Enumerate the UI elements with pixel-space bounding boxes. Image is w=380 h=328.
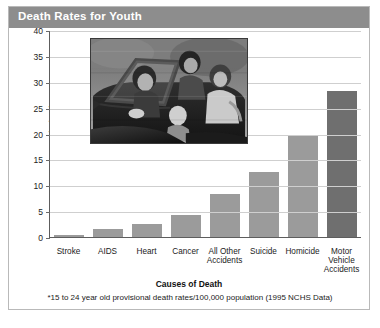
x-axis-label-homicide: Homicide	[284, 247, 321, 281]
y-axis-tick-label: 40	[34, 26, 43, 36]
y-axis-tick	[46, 238, 50, 239]
teens-in-convertible-photo	[90, 38, 248, 144]
gridline	[50, 31, 361, 32]
y-axis-tick	[46, 31, 50, 32]
y-axis-tick	[46, 135, 50, 136]
bar-all-other-accidents[interactable]	[210, 194, 240, 237]
x-axis-label-motor-vehicle-accidents: MotorVehicleAccidents	[323, 247, 360, 281]
x-axis-label-cancer: Cancer	[167, 247, 204, 281]
page-title: Death Rates for Youth	[18, 10, 142, 22]
y-axis-tick-label: 30	[34, 78, 43, 88]
x-axis-tick-labels: StrokeAIDSHeartCancerAll OtherAccidentsS…	[49, 247, 361, 281]
bar-heart[interactable]	[132, 224, 162, 237]
chart-card: Death Rates for Youth Youth deaths per 1…	[8, 6, 370, 310]
y-axis-tick-label: 5	[38, 207, 43, 217]
y-axis-tick-label: 20	[34, 130, 43, 140]
gridline	[50, 212, 361, 213]
gridline	[50, 186, 361, 187]
y-axis-tick	[46, 212, 50, 213]
y-axis-tick	[46, 160, 50, 161]
x-axis-label-all-other-accidents: All OtherAccidents	[206, 247, 243, 281]
chart-page: Death Rates for Youth Youth deaths per 1…	[0, 0, 380, 328]
bar-suicide[interactable]	[249, 172, 279, 237]
gridline	[50, 160, 361, 161]
bar-aids[interactable]	[93, 229, 123, 237]
x-axis-label-aids: AIDS	[89, 247, 126, 281]
y-axis-tick	[46, 57, 50, 58]
bar-cancer[interactable]	[171, 215, 201, 237]
bar-motor-vehicle-accidents[interactable]	[327, 91, 357, 237]
x-axis-label-suicide: Suicide	[245, 247, 282, 281]
y-axis-tick-label: 25	[34, 104, 43, 114]
x-axis-label-heart: Heart	[128, 247, 165, 281]
y-axis-tick	[46, 83, 50, 84]
y-axis-tick	[46, 109, 50, 110]
y-axis-tick-label: 0	[38, 233, 43, 243]
chart-title-bar: Death Rates for Youth	[9, 7, 369, 28]
y-axis-tick-label: 10	[34, 181, 43, 191]
y-axis-tick-label: 15	[34, 155, 43, 165]
footnote-box: *15 to 24 year old provisional death rat…	[17, 288, 363, 307]
footnote-text: *15 to 24 year old provisional death rat…	[47, 293, 332, 302]
y-axis-tick	[46, 186, 50, 187]
bar-stroke[interactable]	[54, 235, 84, 237]
y-axis-tick-label: 35	[34, 52, 43, 62]
x-axis-label-stroke: Stroke	[50, 247, 87, 281]
